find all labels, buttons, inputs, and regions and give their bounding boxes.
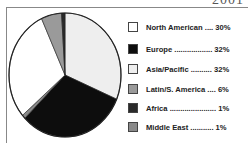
swatch-asia-pacific — [128, 64, 138, 74]
legend-item-middle-east: Middle East ........... 1% — [128, 121, 227, 133]
legend-label: Africa ...................... 1% — [146, 104, 229, 113]
legend-label: Asia/Pacific .......... 32% — [146, 65, 229, 74]
legend-item-africa: Africa ...................... 1% — [128, 102, 229, 114]
legend-item-europe: Europe .................. 32% — [128, 43, 230, 55]
pie-chart — [0, 0, 130, 143]
legend-label: North American .... 30% — [146, 23, 231, 32]
legend-item-north-american: North American .... 30% — [128, 21, 231, 33]
swatch-europe — [128, 44, 138, 54]
swatch-africa — [128, 103, 138, 113]
legend-label: Europe .................. 32% — [146, 45, 230, 54]
legend-item-latin-america: Latin/S. America .... 6% — [128, 83, 229, 95]
swatch-latin-america — [128, 84, 138, 94]
swatch-middle-east — [128, 122, 138, 132]
legend-label: Latin/S. America .... 6% — [146, 85, 229, 94]
legend-label: Middle East ........... 1% — [146, 123, 227, 132]
legend-item-asia-pacific: Asia/Pacific .......... 32% — [128, 63, 229, 75]
swatch-north-american — [128, 22, 138, 32]
